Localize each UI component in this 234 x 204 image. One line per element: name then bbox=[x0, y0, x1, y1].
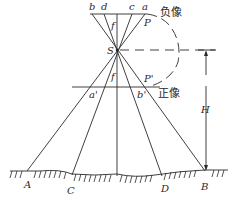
ray-d-D bbox=[104, 14, 162, 176]
point-label-b-prime: b' bbox=[137, 89, 146, 100]
projection-center-label: S bbox=[107, 45, 114, 56]
ground-label-A: A bbox=[23, 179, 31, 190]
arrow-up-icon bbox=[204, 50, 208, 56]
ground-label-B: B bbox=[200, 181, 208, 192]
plane-label-p: P bbox=[143, 17, 151, 28]
point-label-b: b bbox=[89, 1, 95, 12]
ray-c-C bbox=[72, 14, 132, 175]
plane-label-p-prime: P' bbox=[143, 73, 153, 84]
point-label-d: d bbox=[101, 1, 107, 12]
positive-image-label: 正像 bbox=[158, 87, 180, 100]
height-label: H bbox=[200, 104, 210, 115]
negative-image-label: 负像 bbox=[160, 5, 182, 19]
ground-label-C: C bbox=[67, 185, 75, 196]
focal-label-lower: f bbox=[110, 71, 117, 82]
projection-center-point bbox=[116, 49, 119, 52]
photogrammetry-diagram: b d c a f P 负像 S f P' 正像 a' b' H A C D B bbox=[0, 0, 234, 204]
point-label-a: a bbox=[142, 1, 148, 12]
point-label-c: c bbox=[129, 1, 135, 12]
focal-label-upper: f bbox=[110, 20, 117, 31]
point-label-a-prime: a' bbox=[89, 89, 98, 100]
ground-label-D: D bbox=[160, 183, 169, 194]
ray-b-B bbox=[92, 14, 205, 171]
ray-a-A bbox=[27, 14, 145, 171]
